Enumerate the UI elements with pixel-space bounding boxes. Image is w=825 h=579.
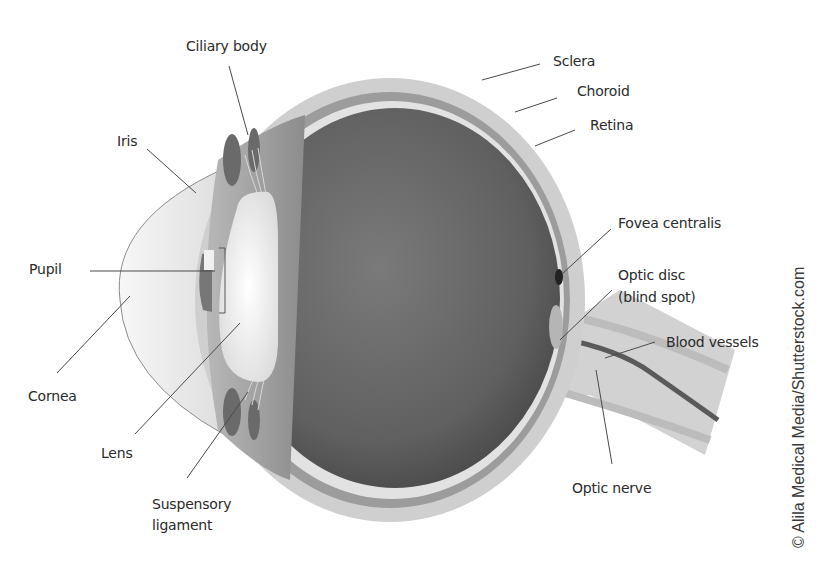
- label-choroid: Choroid: [577, 81, 630, 102]
- eye-diagram: Ciliary body Iris Pupil Cornea Lens Susp…: [0, 0, 825, 579]
- label-lens: Lens: [101, 443, 133, 464]
- label-suspensory-ligament-1: Suspensory: [152, 494, 231, 515]
- label-fovea-centralis: Fovea centralis: [618, 213, 721, 234]
- eye-illustration: [0, 0, 825, 579]
- label-ciliary-body: Ciliary body: [186, 36, 267, 57]
- label-retina: Retina: [590, 115, 633, 136]
- label-optic-nerve: Optic nerve: [572, 478, 651, 499]
- label-pupil: Pupil: [29, 259, 62, 280]
- image-credit: © Alila Medical Media/Shutterstock.com: [790, 267, 808, 548]
- label-optic-disc-2: (blind spot): [618, 287, 696, 308]
- label-optic-disc-1: Optic disc: [618, 265, 685, 286]
- label-sclera: Sclera: [553, 51, 595, 72]
- label-suspensory-ligament-2: ligament: [152, 515, 212, 536]
- label-blood-vessels: Blood vessels: [666, 332, 759, 353]
- label-iris: Iris: [117, 131, 137, 152]
- label-cornea: Cornea: [28, 386, 77, 407]
